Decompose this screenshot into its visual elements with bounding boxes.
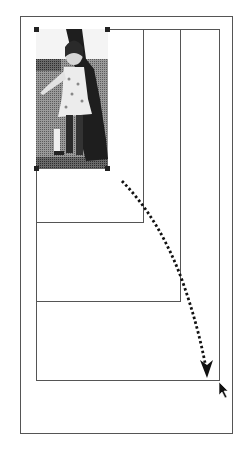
mouse-cursor-icon xyxy=(0,0,249,451)
